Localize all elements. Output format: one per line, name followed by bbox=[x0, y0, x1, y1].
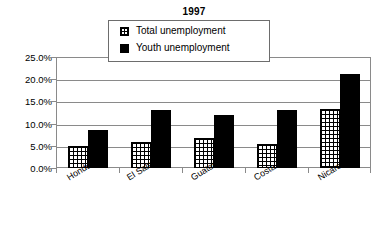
legend-item-youth-unemployment: Youth unemployment bbox=[120, 43, 230, 53]
chart-legend: Total unemployment Youth unemployment bbox=[108, 20, 270, 62]
bars-layer bbox=[56, 57, 371, 168]
chart-title: 1997 bbox=[0, 6, 388, 17]
y-axis-tick-label: 20.0% bbox=[0, 74, 52, 85]
y-axis-tick-label: 25.0% bbox=[0, 52, 52, 63]
bar-total bbox=[320, 109, 340, 168]
y-axis-tick-label: 5.0% bbox=[0, 140, 52, 151]
bar-group bbox=[245, 57, 308, 168]
legend-item-total-unemployment: Total unemployment bbox=[120, 26, 226, 36]
solid-black-swatch-icon bbox=[120, 44, 129, 53]
unemployment-bar-chart: 1997 25.0% 20.0% 15.0% 10.0% 5.0% 0.0% H… bbox=[0, 0, 388, 229]
legend-item-label: Total unemployment bbox=[136, 26, 226, 36]
bar-group bbox=[119, 57, 182, 168]
grid-pattern-swatch-icon bbox=[120, 27, 129, 36]
y-axis-tick-label: 10.0% bbox=[0, 118, 52, 129]
bar-group bbox=[182, 57, 245, 168]
legend-item-label: Youth unemployment bbox=[136, 43, 230, 53]
bar-group bbox=[56, 57, 119, 168]
y-axis-tick-label: 15.0% bbox=[0, 96, 52, 107]
bar-group bbox=[308, 57, 371, 168]
x-axis-labels: HondurasEl SalvadorGuatemalaCosta RicaNi… bbox=[0, 168, 388, 229]
